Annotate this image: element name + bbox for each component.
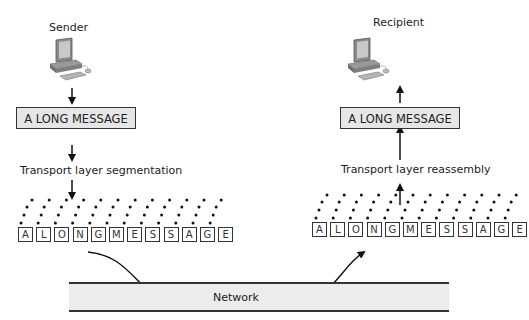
segment-letter: E	[218, 227, 233, 242]
recipient-segments: ALONGMESSAGE	[312, 222, 529, 237]
segment-letter: G	[200, 227, 215, 242]
sender-segment-dots	[20, 199, 223, 225]
segment-letter: G	[494, 222, 509, 237]
segment-letter: L	[36, 227, 51, 242]
segment-letter: A	[476, 222, 491, 237]
segment-letter: S	[458, 222, 473, 237]
recipient-message-box: A LONG MESSAGE	[340, 107, 460, 129]
segment-letter: N	[73, 227, 88, 242]
segment-letter: E	[421, 222, 436, 237]
sender-message-box: A LONG MESSAGE	[16, 107, 136, 129]
segment-letter: S	[145, 227, 160, 242]
sender-process-label: Transport layer segmentation	[20, 164, 182, 177]
segment-letter: A	[312, 222, 327, 237]
segment-letter: A	[18, 227, 33, 242]
recipient-process-label: Transport layer reassembly	[341, 163, 491, 176]
segment-letter: G	[91, 227, 106, 242]
segment-letter: N	[367, 222, 382, 237]
segment-letter: E	[127, 227, 142, 242]
segment-letter: O	[348, 222, 363, 237]
segment-letter: E	[512, 222, 527, 237]
segment-letter: L	[330, 222, 345, 237]
segment-letter: M	[109, 227, 124, 242]
segment-letter: S	[439, 222, 454, 237]
recipient-computer-icon	[348, 38, 389, 80]
segment-letter: A	[182, 227, 197, 242]
sender-computer-icon	[50, 38, 91, 80]
recipient-label: Recipient	[373, 16, 424, 29]
segment-letter: O	[54, 227, 69, 242]
segment-letter: M	[403, 222, 418, 237]
segment-letter: G	[385, 222, 400, 237]
network-label: Network	[213, 291, 259, 304]
recipient-segment-dots	[315, 194, 518, 220]
sender-segments: ALONGMESSAGE	[18, 227, 235, 242]
segment-letter: S	[164, 227, 179, 242]
network-band	[69, 282, 449, 312]
